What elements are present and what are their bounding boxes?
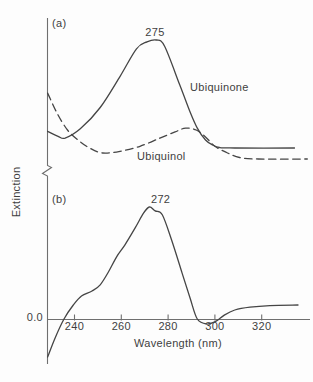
plot-svg: 240260280300320 (0, 0, 313, 382)
tick-label: 320 (252, 320, 271, 332)
peak-b-annotation: 272 (151, 193, 170, 205)
peak-a-annotation: 275 (145, 26, 164, 38)
ubiquinone-series-label: Ubiquinone (190, 81, 249, 93)
tick-label: 260 (112, 320, 131, 332)
ubiquinol-series-label: Ubiquinol (137, 150, 186, 162)
y-axis-title: Extinction (10, 167, 22, 218)
tick-label: 280 (158, 320, 177, 332)
ubiquinone-curve (48, 40, 295, 148)
x-axis-title: Wavelength (nm) (134, 337, 222, 349)
zero-value-label: 0.0 (19, 311, 43, 323)
difference-spectrum-curve (48, 207, 298, 357)
panel-b-label: (b) (52, 193, 66, 205)
spectra-figure: 240260280300320 (a) 275 Ubiquinone Ubiqu… (0, 0, 313, 382)
panel-a-label: (a) (52, 17, 66, 29)
tick-label: 240 (65, 320, 84, 332)
y-axis-line (43, 18, 52, 364)
